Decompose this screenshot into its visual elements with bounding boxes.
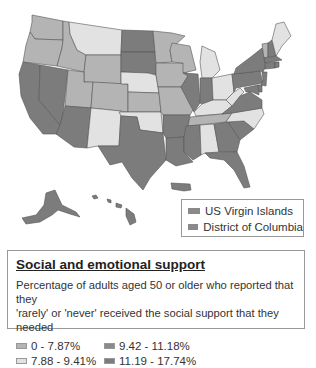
state-ri[interactable] [275,62,279,68]
swatch-icon [16,343,27,349]
state-wa[interactable] [30,15,63,40]
legend-bin: 11.19 - 17.74% [104,354,254,368]
territory-label: US Virgin Islands [205,203,293,219]
state-co[interactable] [91,82,128,112]
legend-bin: 0 - 7.87% [16,339,104,353]
swatch-icon [188,208,200,214]
state-hi[interactable] [92,195,98,199]
legend-description: Percentage of adults aged 50 or older wh… [16,278,304,334]
state-in[interactable] [200,78,213,104]
swatch-icon [16,358,27,364]
legend-title: Social and emotional support [16,257,304,272]
state-fl[interactable] [205,152,250,188]
state-nd[interactable] [121,30,155,52]
swatch-icon [104,358,115,364]
swatch-icon [104,343,115,349]
territory-item-vi: US Virgin Islands [188,203,303,219]
state-me[interactable] [272,22,291,56]
state-ks[interactable] [128,92,161,112]
territory-legend: US Virgin Islands District of Columbia [181,199,304,237]
state-wy[interactable] [84,55,121,84]
state-ct[interactable] [265,62,275,69]
state-nm[interactable] [87,108,121,148]
map-legend: Social and emotional support Percentage … [7,250,305,329]
territory-item-dc: District of Columbia [188,219,303,235]
swatch-icon [188,224,198,230]
state-mt[interactable] [69,22,122,55]
legend-bin: 9.42 - 11.18% [104,339,254,353]
state-ak[interactable] [22,190,80,224]
state-hi-4[interactable] [126,208,136,225]
territory-label: District of Columbia [203,219,303,235]
territory-pr[interactable] [171,183,191,191]
legend-bins: 0 - 7.87% 9.42 - 11.18% 7.88 - 9.41% 11.… [16,339,304,368]
state-ny[interactable] [234,48,266,74]
state-hi-3[interactable] [116,203,122,208]
legend-bin: 7.88 - 9.41% [16,354,104,368]
state-sd[interactable] [121,52,156,75]
state-hi-2[interactable] [107,199,111,203]
state-mi[interactable] [200,46,220,78]
